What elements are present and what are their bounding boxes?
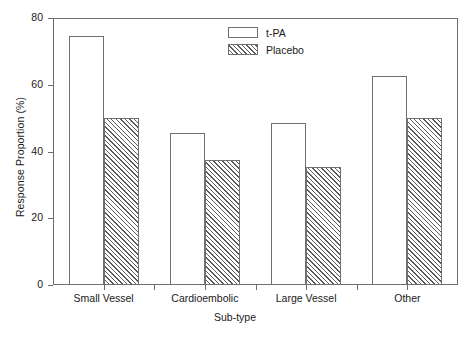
bar-t-pa-cardioembolic bbox=[170, 133, 205, 285]
y-tick-mark bbox=[48, 18, 53, 19]
x-tick-mark-center bbox=[306, 285, 307, 290]
bar-chart-figure: Response Proportion (%) 020406080 Small … bbox=[0, 0, 470, 339]
x-tick-mark bbox=[154, 285, 155, 290]
y-tick-label: 40 bbox=[31, 145, 43, 157]
x-tick-mark bbox=[256, 285, 257, 290]
x-tick-mark-center bbox=[205, 285, 206, 290]
y-tick-mark bbox=[48, 285, 53, 286]
x-axis-title: Sub-type bbox=[0, 311, 470, 323]
y-axis-title: Response Proportion (%) bbox=[14, 57, 26, 257]
x-tick-label-small-vessel: Small Vessel bbox=[74, 292, 134, 304]
y-tick-mark bbox=[48, 152, 53, 153]
x-tick-mark-center bbox=[104, 285, 105, 290]
x-tick-label-cardioembolic: Cardioembolic bbox=[171, 292, 238, 304]
y-tick-label: 0 bbox=[37, 278, 43, 290]
bar-t-pa-other bbox=[372, 76, 407, 285]
legend-label: t-PA bbox=[266, 27, 286, 39]
bar-t-pa-large-vessel bbox=[271, 123, 306, 285]
legend-swatch-icon bbox=[228, 27, 258, 38]
chart-legend: t-PAPlacebo bbox=[228, 24, 348, 58]
legend-swatch-icon bbox=[228, 44, 258, 55]
x-tick-label-other: Other bbox=[394, 292, 420, 304]
legend-item-t-pa: t-PA bbox=[228, 24, 348, 41]
bar-placebo-cardioembolic bbox=[205, 160, 240, 285]
legend-item-placebo: Placebo bbox=[228, 41, 348, 58]
bar-t-pa-small-vessel bbox=[69, 36, 104, 285]
bar-placebo-small-vessel bbox=[104, 118, 139, 285]
x-tick-label-large-vessel: Large Vessel bbox=[276, 292, 337, 304]
x-tick-mark-center bbox=[407, 285, 408, 290]
legend-label: Placebo bbox=[266, 44, 304, 56]
y-tick-mark bbox=[48, 85, 53, 86]
x-tick-mark bbox=[357, 285, 358, 290]
bar-placebo-other bbox=[407, 118, 442, 285]
bar-placebo-large-vessel bbox=[306, 167, 341, 285]
y-tick-label: 80 bbox=[31, 11, 43, 23]
y-tick-mark bbox=[48, 218, 53, 219]
y-tick-label: 60 bbox=[31, 78, 43, 90]
y-tick-label: 20 bbox=[31, 211, 43, 223]
